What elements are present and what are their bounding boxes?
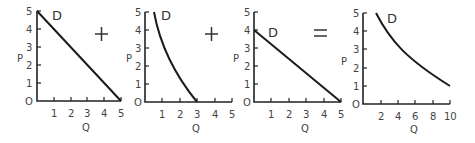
svg-text:1: 1: [268, 109, 274, 120]
svg-text:5: 5: [338, 109, 344, 120]
svg-text:4: 4: [26, 24, 32, 35]
svg-text:4: 4: [353, 26, 359, 37]
svg-text:P: P: [126, 53, 132, 64]
svg-text:5: 5: [118, 108, 124, 119]
svg-text:2: 2: [26, 60, 32, 71]
svg-text:1: 1: [51, 108, 57, 119]
svg-text:4: 4: [101, 108, 107, 119]
svg-text:3: 3: [84, 108, 90, 119]
svg-text:2: 2: [378, 111, 384, 122]
svg-text:3: 3: [244, 43, 250, 54]
equals-operator: [314, 30, 327, 36]
svg-text:P: P: [17, 53, 23, 64]
svg-text:D: D: [52, 8, 62, 23]
svg-text:Q: Q: [410, 124, 418, 135]
svg-text:Q: Q: [301, 123, 309, 134]
svg-text:1: 1: [26, 78, 32, 89]
svg-text:5: 5: [135, 7, 141, 18]
panel-2: 54 32 1O 12 34 5 P Q D: [126, 7, 235, 134]
svg-text:O: O: [134, 97, 142, 108]
svg-text:1: 1: [353, 81, 359, 92]
svg-text:2: 2: [135, 61, 141, 72]
svg-text:4: 4: [395, 111, 401, 122]
svg-text:Q: Q: [192, 123, 200, 134]
svg-text:O: O: [352, 99, 360, 110]
svg-text:P: P: [341, 56, 347, 67]
svg-text:P: P: [233, 53, 239, 64]
svg-text:2: 2: [286, 109, 292, 120]
svg-text:2: 2: [353, 63, 359, 74]
svg-text:2: 2: [244, 61, 250, 72]
svg-text:2: 2: [177, 109, 183, 120]
svg-text:3: 3: [353, 44, 359, 55]
svg-text:D: D: [387, 11, 397, 26]
svg-text:5: 5: [244, 7, 250, 18]
svg-text:3: 3: [303, 109, 309, 120]
panel-3: 54 32 1O 12 34 5 P Q D: [233, 7, 344, 134]
demand-addition-figure: 54 32 1O 12 34 5 P Q D 54 32 1O 12 34 5 …: [0, 0, 475, 143]
svg-text:D: D: [161, 8, 171, 23]
panel-4: 54 32 1O 24 68 10 P Q D: [341, 8, 457, 135]
svg-text:8: 8: [430, 111, 436, 122]
plus-operator: [205, 27, 218, 41]
svg-text:5: 5: [353, 8, 359, 19]
svg-text:4: 4: [212, 109, 218, 120]
svg-text:3: 3: [26, 42, 32, 53]
svg-text:3: 3: [135, 43, 141, 54]
svg-text:3: 3: [194, 109, 200, 120]
svg-text:O: O: [243, 97, 251, 108]
svg-text:2: 2: [68, 108, 74, 119]
svg-text:1: 1: [135, 79, 141, 90]
svg-text:5: 5: [26, 6, 32, 17]
svg-text:1: 1: [159, 109, 165, 120]
svg-text:Q: Q: [82, 122, 90, 133]
svg-text:4: 4: [135, 25, 141, 36]
svg-text:5: 5: [229, 109, 235, 120]
svg-text:6: 6: [412, 111, 418, 122]
svg-text:4: 4: [244, 25, 250, 36]
svg-text:1: 1: [244, 79, 250, 90]
panel-1: 54 32 1O 12 34 5 P Q D: [17, 6, 124, 133]
svg-text:4: 4: [321, 109, 327, 120]
svg-text:10: 10: [444, 111, 457, 122]
plus-operator: [95, 27, 108, 41]
svg-text:O: O: [25, 96, 33, 107]
svg-text:D: D: [268, 25, 278, 40]
